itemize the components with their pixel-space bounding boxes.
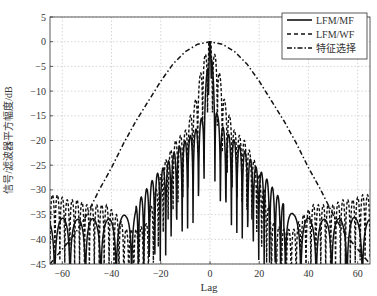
x-tick-label: 0 [208,268,213,279]
y-axis-label: 信号/滤波器平方幅度/dB [2,86,14,194]
x-tick-label: −40 [104,268,120,279]
x-tick-label: 40 [303,268,313,279]
y-tick-label: −20 [30,135,46,146]
y-tick-label: −40 [30,234,46,245]
legend-label-lfm-mf: LFM/MF [316,15,354,26]
y-tick-label: −10 [30,86,46,97]
chart: 50−5−10−15−20−25−30−35−40−45 −60−40−2002… [0,0,377,296]
chart-canvas: 50−5−10−15−20−25−30−35−40−45 −60−40−2002… [0,0,377,296]
y-tick-label: −45 [30,259,46,270]
y-tick-label: −15 [30,110,46,121]
y-tick-label: −30 [30,184,46,195]
x-tick-label: 20 [254,268,264,279]
x-tick-label: 60 [353,268,363,279]
y-tick-label: −5 [35,61,46,72]
legend: LFM/MF LFM/WF 特征选择 [282,13,367,59]
legend-label-lfm-wf: LFM/WF [316,29,355,40]
x-tick-label: −60 [54,268,70,279]
y-tick-label: −25 [30,160,46,171]
y-tick-label: −35 [30,209,46,220]
legend-label-feature-select: 特征选择 [316,42,356,54]
y-tick-label: 0 [41,36,46,47]
x-tick-label: −20 [153,268,169,279]
x-axis-label: Lag [200,281,218,293]
y-tick-label: 5 [41,12,46,23]
